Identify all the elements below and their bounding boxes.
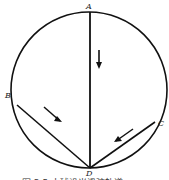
label-d: D xyxy=(85,169,93,178)
label-b: B xyxy=(4,91,11,100)
circle-chords-diagram: A B C D 图 3.5 小球沿光滑弦轨道 xyxy=(0,0,169,180)
arrow-ad-icon xyxy=(96,50,102,69)
arrow-bd-icon xyxy=(44,107,62,122)
label-a: A xyxy=(85,2,92,11)
figure-caption: 图 3.5 小球沿光滑弦轨道 xyxy=(22,177,123,180)
label-c: C xyxy=(158,119,164,128)
circle xyxy=(11,12,167,168)
